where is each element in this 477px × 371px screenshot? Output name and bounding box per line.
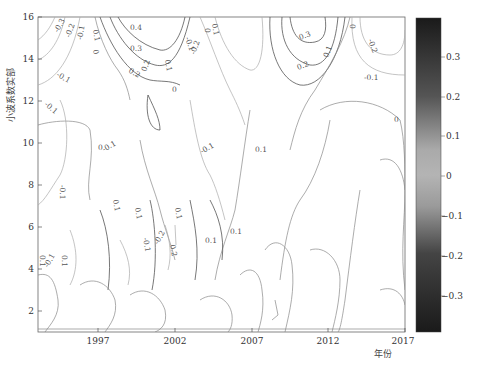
y-tick-label: 2: [28, 306, 34, 316]
contour-chart: -0.3 -0.2 -0.1 0.1 0 0.4 0.3 0.2 0.2 0.1…: [0, 0, 477, 371]
y-tick-label: 4: [28, 264, 34, 274]
y-tick-label: 8: [28, 180, 34, 190]
y-tick-label: 10: [23, 138, 35, 148]
y-tick-label: 6: [28, 222, 34, 232]
x-tick-label: 2017: [392, 336, 415, 346]
svg-text:0.1: 0.1: [60, 255, 69, 267]
colorbar-tick-label: −0.2: [441, 251, 463, 261]
y-tick-label: 12: [23, 96, 34, 106]
svg-text:-0.1: -0.1: [364, 73, 378, 82]
svg-text:0.3: 0.3: [130, 44, 142, 53]
svg-text:0.1: 0.1: [230, 227, 242, 236]
colorbar-tick-label: −0.3: [441, 291, 463, 301]
plot-frame: [38, 17, 405, 332]
colorbar-tick-label: −0.1: [441, 211, 463, 221]
x-tick-label: 1997: [87, 336, 110, 346]
svg-text:0.1: 0.1: [205, 236, 217, 245]
plot-area: -0.3 -0.2 -0.1 0.1 0 0.4 0.3 0.2 0.2 0.1…: [5, 12, 415, 359]
svg-text:0: 0: [172, 85, 177, 94]
colorbar-tick-label: 0.2: [446, 92, 460, 102]
y-tick-label: 16: [23, 12, 35, 22]
x-tick-label: 2007: [241, 336, 264, 346]
x-axis: 1997 2002 2007 2012 2017 年份: [87, 328, 415, 359]
y-axis: 2 4 6 8 10 12 14 16 小波系数实部: [5, 12, 42, 316]
svg-text:0: 0: [203, 28, 212, 33]
x-tick-label: 2002: [164, 336, 187, 346]
x-tick-label: 2012: [317, 336, 340, 346]
y-tick-label: 14: [23, 54, 35, 64]
colorbar-tick-label: 0: [446, 171, 452, 181]
svg-text:0: 0: [394, 115, 399, 124]
svg-text:0.4: 0.4: [130, 23, 142, 32]
colorbar: 0.3 0.2 0.1 0 −0.1 −0.2 −0.3: [416, 18, 463, 332]
svg-text:-0.1: -0.1: [58, 185, 67, 199]
colorbar-gradient: [416, 18, 441, 332]
svg-text:0.1: 0.1: [255, 145, 267, 154]
svg-text:0: 0: [348, 24, 357, 29]
x-axis-title: 年份: [374, 348, 392, 359]
y-axis-title: 小波系数实部: [5, 68, 16, 122]
colorbar-tick-label: 0.3: [446, 52, 461, 62]
colorbar-tick-label: 0.1: [446, 131, 460, 141]
